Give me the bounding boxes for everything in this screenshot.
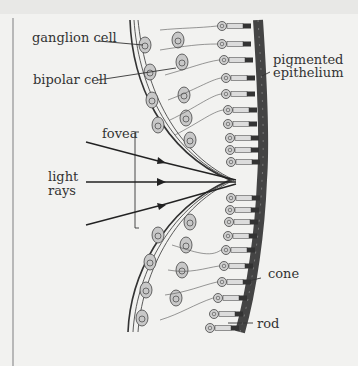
label-light: light: [48, 169, 78, 184]
photoreceptor-row-upper: [218, 22, 261, 167]
label-rays: rays: [48, 183, 76, 198]
label-ganglion-cell: ganglion cell: [32, 30, 117, 45]
fovea-bracket: [135, 132, 139, 228]
pigmented-epithelium-band: [240, 20, 263, 332]
label-cone: cone: [268, 266, 299, 281]
label-epithelium: epithelium: [273, 65, 343, 80]
label-bipolar-cell: bipolar cell: [33, 72, 107, 87]
label-fovea: fovea: [102, 126, 137, 141]
label-rod: rod: [257, 316, 279, 331]
